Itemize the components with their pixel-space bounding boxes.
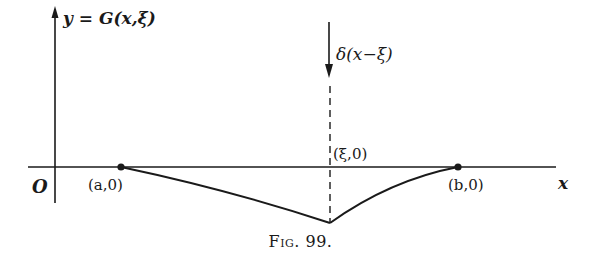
point-b-label: (b,0) — [448, 176, 484, 194]
figure-caption: Fig. 99. — [0, 232, 601, 251]
point-b-dot — [454, 163, 461, 170]
origin-label: O — [32, 176, 48, 197]
impulse-label: δ(x−ξ) — [336, 44, 393, 64]
greens-function-right-branch — [330, 167, 458, 223]
impulse-arrowhead — [325, 64, 333, 78]
caption-number: 99. — [305, 232, 332, 251]
greens-function-left-branch — [121, 167, 330, 223]
x-axis-label: x — [558, 173, 568, 193]
y-axis-label: y = G(x,ξ) — [63, 8, 156, 28]
point-xi-label: (ξ,0) — [333, 145, 367, 163]
y-axis-arrowhead — [52, 6, 59, 18]
caption-prefix: Fig. — [269, 232, 300, 251]
point-a-dot — [117, 163, 124, 170]
point-a-label: (a,0) — [88, 176, 123, 194]
